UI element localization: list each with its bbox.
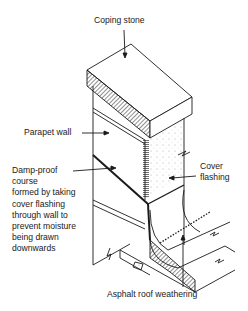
parapet-drawing [0, 0, 248, 311]
label-asphalt-roof-weathering: Asphalt roof weathering [107, 289, 197, 300]
label-coping-stone: Coping stone [94, 15, 145, 26]
label-damp-proof-course: Damp-proof course formed by taking cover… [12, 165, 76, 255]
label-parapet-wall: Parapet wall [24, 127, 71, 138]
label-cover-flashing: Cover flashing [200, 161, 230, 183]
asphalt-roof [107, 232, 235, 292]
